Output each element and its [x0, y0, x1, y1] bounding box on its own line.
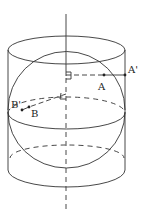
cylinder-bottom-back-arc [10, 145, 124, 158]
point-b [28, 106, 31, 109]
sphere-lower-arc [8, 112, 125, 168]
label-b-prime: B' [11, 99, 21, 110]
label-a-prime: A' [127, 64, 138, 75]
equator-back-arc [8, 97, 125, 113]
right-angle-mark-a [66, 72, 71, 79]
point-a-prime [124, 74, 127, 77]
equator-front-arc [8, 113, 125, 129]
point-a [103, 74, 106, 77]
label-a: A [97, 81, 106, 92]
cylinder-bottom-front-arc [8, 170, 125, 187]
cylinder-top-ellipse [8, 36, 125, 64]
sphere-cylinder-diagram: A A' B B' [0, 0, 144, 221]
label-b: B [31, 108, 38, 119]
